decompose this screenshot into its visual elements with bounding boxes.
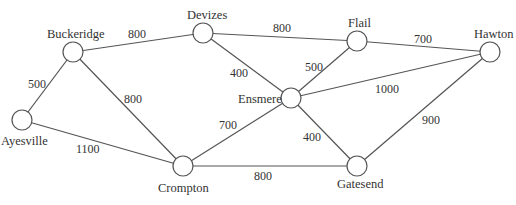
- node-label-ayesville: Ayesville: [1, 134, 48, 148]
- network-graph: 5001100800800800400700500100070040080090…: [0, 0, 516, 205]
- node-label-gatesend: Gatesend: [337, 177, 384, 191]
- node-devizes: [193, 23, 213, 43]
- edge-weight-label: 400: [230, 66, 248, 80]
- weights-layer: 5001100800800800400700500100070040080090…: [28, 21, 440, 183]
- edge-ensmere-gatesend: [291, 98, 357, 166]
- node-label-flail: Flail: [348, 16, 371, 30]
- edge-weight-label: 1100: [76, 142, 100, 156]
- edge-weight-label: 900: [422, 113, 440, 127]
- edge-ensmere-crompton: [183, 98, 291, 166]
- node-label-hawton: Hawton: [474, 27, 514, 41]
- node-label-devizes: Devizes: [187, 8, 227, 22]
- node-label-ensmere: Ensmere: [238, 92, 282, 106]
- edge-weight-label: 500: [28, 77, 46, 91]
- node-buckeridge: [63, 42, 83, 62]
- edge-weight-label: 500: [305, 60, 323, 74]
- edge-weight-label: 700: [414, 32, 432, 46]
- edge-weight-label: 700: [219, 118, 237, 132]
- edge-weight-label: 400: [303, 130, 321, 144]
- node-hawton: [480, 42, 500, 62]
- edge-weight-label: 1000: [375, 82, 399, 96]
- node-label-crompton: Crompton: [158, 181, 209, 195]
- edge-flail-ensmere: [291, 41, 357, 98]
- node-flail: [347, 31, 367, 51]
- node-label-buckeridge: Buckeridge: [47, 27, 105, 41]
- node-ayesville: [12, 110, 32, 130]
- node-gatesend: [347, 156, 367, 176]
- node-crompton: [173, 156, 193, 176]
- edge-weight-label: 800: [128, 27, 146, 41]
- edge-weight-label: 800: [124, 92, 142, 106]
- edge-gatesend-hawton: [357, 52, 490, 166]
- edge-weight-label: 800: [254, 169, 272, 183]
- node-ensmere: [281, 88, 301, 108]
- edge-weight-label: 800: [273, 21, 291, 35]
